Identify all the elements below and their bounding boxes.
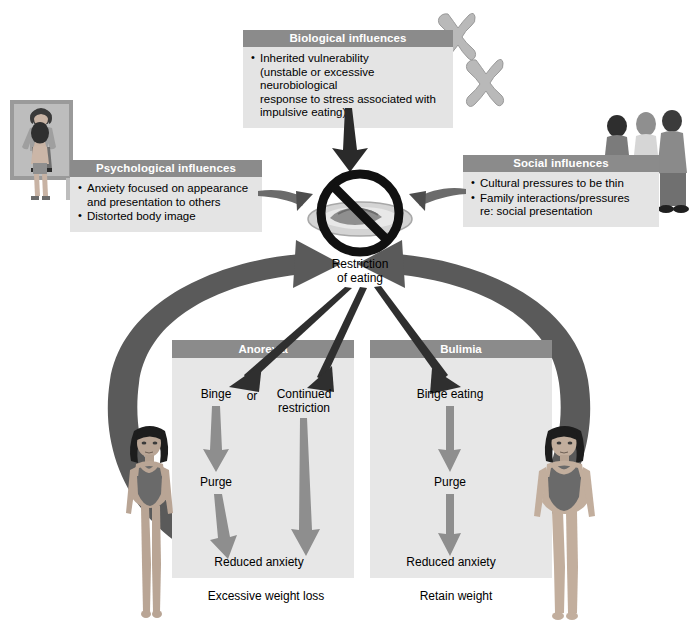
eating-disorder-diagram: Biological influences Inherited vulnerab… bbox=[0, 0, 694, 634]
psychological-to-center-arrowhead bbox=[296, 191, 313, 211]
list-item: Family interactions/pressures re: social… bbox=[471, 192, 652, 219]
bulimia-section-title: Bulimia bbox=[370, 340, 552, 358]
center-restriction-label: Restriction of eating bbox=[310, 258, 410, 285]
psychological-influences-body: Anxiety focused on appearance and presen… bbox=[70, 177, 262, 232]
psychological-influences-box: Psychological influences Anxiety focused… bbox=[70, 160, 262, 232]
list-item: Cultural pressures to be thin bbox=[471, 177, 652, 191]
node-purge-bulimia: Purge bbox=[424, 476, 476, 490]
psychological-influences-title: Psychological influences bbox=[70, 160, 262, 177]
node-binge: Binge bbox=[191, 388, 241, 402]
social-to-center-arrowhead bbox=[409, 191, 426, 211]
node-reduced-anxiety-bulimia: Reduced anxiety bbox=[396, 556, 506, 570]
social-influences-title: Social influences bbox=[463, 155, 659, 172]
psychological-to-center-arrow-body bbox=[258, 190, 306, 206]
social-to-center-arrow-body bbox=[416, 188, 466, 206]
social-influences-box: Social influences Cultural pressures to … bbox=[463, 155, 659, 227]
list-item: Inherited vulnerability (unstable or exc… bbox=[251, 52, 446, 120]
anorexia-section-title: Anorexia bbox=[172, 340, 354, 358]
node-or: or bbox=[243, 390, 261, 404]
node-continued-restriction: Continued restriction bbox=[262, 388, 346, 415]
anorexia-section: Anorexia bbox=[172, 340, 354, 578]
anorexia-outcome-caption: Excessive weight loss bbox=[186, 589, 346, 603]
node-purge-anorexia: Purge bbox=[190, 476, 242, 490]
biological-influences-title: Biological influences bbox=[243, 30, 453, 47]
node-binge-eating: Binge eating bbox=[400, 388, 500, 402]
biological-influences-body: Inherited vulnerability (unstable or exc… bbox=[243, 47, 453, 128]
biological-influences-box: Biological influences Inherited vulnerab… bbox=[243, 30, 453, 128]
list-item: Anxiety focused on appearance and presen… bbox=[78, 182, 255, 209]
node-reduced-anxiety-anorexia: Reduced anxiety bbox=[204, 556, 314, 570]
bulimia-section: Bulimia bbox=[370, 340, 552, 578]
bulimia-outcome-caption: Retain weight bbox=[396, 589, 516, 603]
list-item: Distorted body image bbox=[78, 210, 255, 224]
social-influences-body: Cultural pressures to be thin Family int… bbox=[463, 172, 659, 227]
